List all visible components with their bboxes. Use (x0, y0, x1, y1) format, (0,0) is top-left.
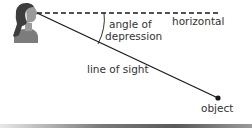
angle-label-line2: depression (105, 30, 162, 42)
horizontal-label: horizontal (172, 15, 224, 27)
object-label: object (201, 102, 233, 114)
angle-of-depression-diagram: angle of depression horizontal line of s… (0, 0, 252, 128)
bottom-border (0, 124, 252, 128)
angle-arc (98, 13, 104, 44)
person-profile-icon (13, 3, 38, 43)
angle-label-line1: angle of (109, 18, 152, 30)
line-of-sight-label: line of sight (87, 63, 149, 75)
object-point (215, 95, 220, 100)
